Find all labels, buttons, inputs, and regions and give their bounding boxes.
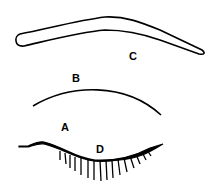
eyebrow-shape	[16, 17, 204, 54]
label-d: D	[96, 144, 104, 155]
eyelid-crease	[33, 90, 161, 115]
label-c: C	[129, 51, 137, 62]
eye-diagram	[0, 0, 218, 187]
label-a: A	[61, 122, 69, 133]
label-b: B	[72, 73, 80, 84]
lash-line	[19, 142, 163, 162]
